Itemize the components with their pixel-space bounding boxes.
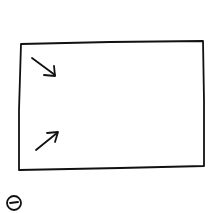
arrow-down-right-icon [32,58,55,76]
sketch-canvas [0,0,217,213]
minus-circle-icon[interactable] [7,196,21,210]
arrow-up-right-icon [36,132,58,150]
frame-rectangle [19,41,204,170]
